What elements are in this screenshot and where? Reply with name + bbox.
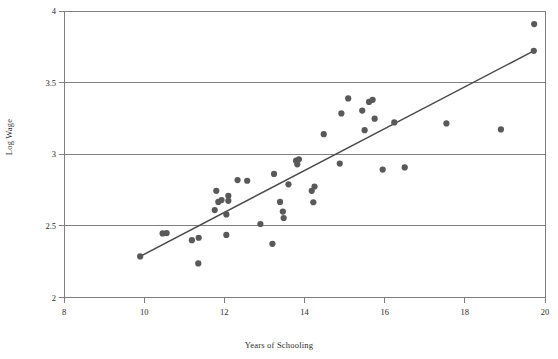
data-point [281,215,287,221]
x-tick-label-16: 16 [380,307,389,317]
data-point [372,116,378,122]
y-tick-label-2.5: 2.5 [24,221,56,231]
x-tick-label-8: 8 [62,307,66,317]
data-point [223,232,229,238]
data-point [225,198,231,204]
tick-marks-group [59,11,545,303]
data-point [311,183,317,189]
data-point [294,161,300,167]
data-point [212,207,218,213]
data-point [277,199,283,205]
data-point [164,230,170,236]
data-point [531,21,537,27]
data-point [196,235,202,241]
y-tick-label-3: 3 [24,149,56,159]
data-point [280,208,286,214]
gridlines-group [64,11,545,298]
x-tick-label-20: 20 [541,307,550,317]
data-point [402,164,408,170]
x-tick-label-10: 10 [140,307,149,317]
x-axis-label: Years of Schooling [0,340,558,350]
y-axis-label: Log Wage [4,107,14,167]
data-point [234,177,240,183]
data-point [359,107,365,113]
data-point [338,110,344,116]
y-tick-label-4: 4 [24,6,56,16]
data-point [189,237,195,243]
data-point [271,171,277,177]
x-tick-label-12: 12 [220,307,229,317]
data-point [370,97,376,103]
data-point [223,211,229,217]
data-point [321,131,327,137]
data-points-group [137,21,537,267]
data-point [213,188,219,194]
data-point [137,253,143,259]
data-point [337,160,343,166]
data-point [362,127,368,133]
y-tick-label-2: 2 [24,293,56,303]
x-tick-label-18: 18 [461,307,470,317]
x-tick-label-14: 14 [300,307,309,317]
data-point [391,119,397,125]
plot-canvas [0,0,558,359]
data-point [531,48,537,54]
scatter-chart-figure: 8101214161820 22.533.54 Log Wage Years o… [0,0,558,359]
data-point [218,197,224,203]
data-point [310,199,316,205]
data-point [244,178,250,184]
data-point [195,260,201,266]
data-point [380,166,386,172]
data-point [269,241,275,247]
data-point [257,221,263,227]
y-tick-label-3.5: 3.5 [24,78,56,88]
data-point [345,95,351,101]
data-point [285,181,291,187]
data-point [443,120,449,126]
data-point [498,126,504,132]
